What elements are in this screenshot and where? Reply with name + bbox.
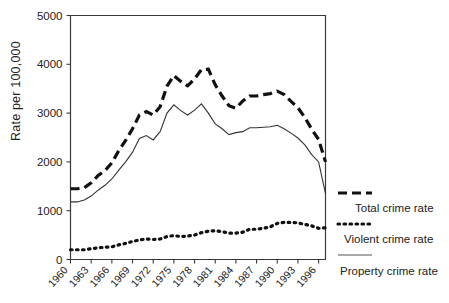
x-tick-label: 1975 [149, 264, 174, 290]
legend-label-property: Property crime rate [340, 265, 438, 277]
series-line-total-crime-rate [71, 69, 326, 189]
y-axis [67, 15, 71, 260]
legend-label-violent: Violent crime rate [344, 233, 433, 245]
chart-svg: 010002000300040005000 196019631966196919… [0, 0, 449, 303]
y-tick-label: 4000 [37, 58, 63, 70]
x-tick-label: 1966 [87, 264, 112, 290]
x-axis [71, 260, 326, 264]
x-tick-label: 1969 [107, 264, 132, 290]
y-tick-label: 0 [56, 254, 62, 266]
y-tick-label: 5000 [37, 10, 63, 22]
y-tick-labels: 010002000300040005000 [37, 10, 63, 266]
y-tick-label: 2000 [37, 156, 63, 168]
x-tick-label: 1987 [232, 264, 257, 290]
x-tick-label: 1990 [252, 264, 277, 290]
series-line-property-crime-rate [71, 104, 326, 202]
x-tick-label: 1978 [169, 264, 194, 290]
y-tick-label: 3000 [37, 107, 63, 119]
x-tick-label: 1984 [211, 264, 236, 290]
x-tick-label: 1972 [128, 264, 153, 290]
x-tick-label: 1993 [273, 264, 298, 290]
x-tick-label: 1963 [66, 264, 91, 290]
series-line-violent-crime-rate [71, 222, 326, 249]
x-tick-label: 1960 [45, 264, 70, 290]
chart-figure: Rate per 100,000 010002000300040005000 1… [0, 0, 449, 303]
legend: Total crime rate Violent crime rate Prop… [338, 193, 438, 277]
legend-label-total: Total crime rate [355, 202, 434, 214]
x-tick-label: 1981 [190, 264, 215, 290]
y-tick-label: 1000 [37, 205, 63, 217]
x-tick-labels: 1960196319661969197219751978198119841987… [45, 264, 318, 290]
plot-area: 010002000300040005000 196019631966196919… [0, 0, 449, 303]
x-tick-label: 1996 [294, 264, 319, 290]
